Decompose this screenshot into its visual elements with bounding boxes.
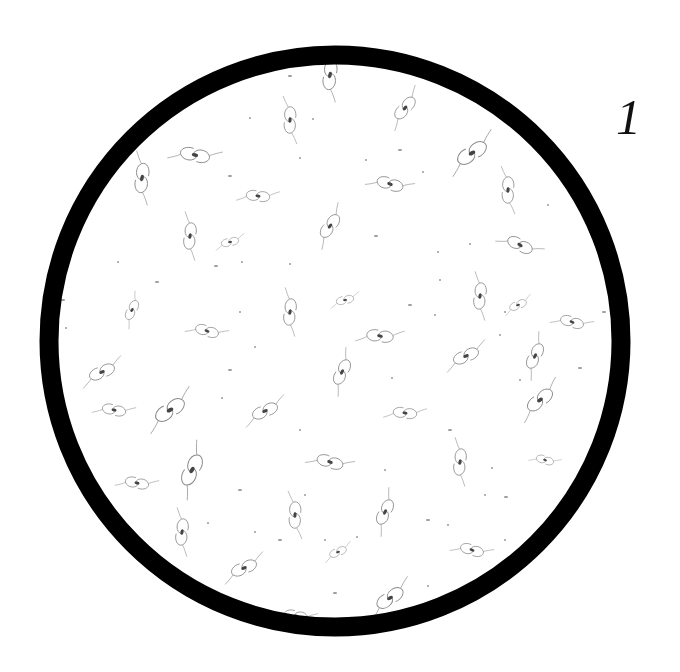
galaxy-speck — [504, 539, 506, 541]
spiral-galaxy — [441, 340, 491, 373]
boundary-ring — [49, 55, 621, 627]
galaxy-speck — [214, 265, 218, 267]
galaxy-speck — [426, 519, 430, 521]
spiral-galaxy — [447, 437, 473, 486]
galaxy-speck — [547, 204, 549, 206]
galaxy-speck — [504, 311, 506, 313]
galaxy-speck — [422, 171, 424, 173]
spiral-galaxy — [513, 377, 567, 423]
galaxy-speck — [238, 489, 242, 491]
galaxy-speck — [427, 585, 429, 587]
spiral-galaxy — [219, 552, 269, 585]
galaxy-speck — [299, 429, 301, 431]
galaxy-speck — [439, 279, 441, 281]
spiral-galaxy — [528, 449, 561, 471]
spiral-galaxy — [277, 287, 303, 336]
galaxy-speck — [324, 539, 326, 541]
galaxy-speck — [155, 281, 159, 283]
galaxy-field-illustration — [0, 0, 680, 672]
spiral-galaxy — [128, 151, 157, 206]
spiral-galaxy — [497, 166, 519, 214]
spiral-galaxy — [92, 397, 136, 423]
galaxy-speck — [333, 592, 337, 594]
galaxy-speck — [288, 75, 292, 77]
spiral-galaxy — [383, 402, 427, 425]
galaxy-speck — [299, 157, 301, 159]
galaxy-speck — [434, 314, 436, 316]
spiral-galaxy — [366, 487, 405, 537]
spiral-galaxy — [140, 386, 201, 434]
spiral-galaxy — [177, 211, 203, 260]
spiral-galaxy — [185, 316, 230, 345]
spiral-galaxy — [329, 291, 362, 308]
galaxy-speck — [408, 304, 412, 306]
spiral-galaxy — [115, 470, 159, 496]
galaxy-speck — [391, 377, 393, 379]
spiral-galaxy — [323, 347, 362, 397]
spiral-galaxy — [236, 185, 280, 208]
spiral-galaxy — [167, 139, 222, 172]
galaxy-speck — [602, 311, 606, 313]
galaxy-speck — [499, 334, 501, 336]
spiral-galaxy — [240, 395, 290, 428]
distant-galaxy-specks — [61, 75, 606, 594]
galaxy-speck — [249, 117, 251, 119]
galaxy-speck — [437, 251, 439, 253]
galaxy-speck — [469, 243, 471, 245]
spiral-galaxies — [77, 48, 594, 629]
panel-label: 1 — [616, 92, 641, 142]
spiral-galaxy — [308, 202, 352, 249]
spiral-galaxy — [450, 535, 495, 564]
spiral-galaxy — [382, 85, 428, 131]
spiral-galaxy — [365, 168, 415, 201]
galaxy-speck — [484, 494, 486, 496]
galaxy-speck — [384, 469, 386, 471]
galaxy-speck — [365, 159, 367, 161]
spiral-galaxy — [516, 331, 555, 381]
galaxy-speck — [448, 429, 452, 431]
galaxy-speck — [117, 261, 119, 263]
galaxy-speck — [254, 531, 256, 533]
spiral-galaxy — [279, 96, 301, 144]
spiral-galaxy — [442, 129, 503, 177]
galaxy-speck — [278, 539, 282, 541]
galaxy-speck — [374, 235, 378, 237]
spiral-galaxy — [77, 356, 127, 389]
galaxy-speck — [239, 311, 241, 313]
galaxy-speck — [289, 263, 291, 265]
galaxy-speck — [578, 367, 582, 369]
galaxy-speck — [447, 524, 449, 526]
galaxy-speck — [304, 494, 306, 496]
galaxy-speck — [356, 536, 358, 538]
galaxy-speck — [228, 175, 232, 177]
spiral-galaxy — [117, 291, 147, 330]
galaxy-speck — [504, 496, 508, 498]
spiral-galaxy — [467, 271, 493, 320]
spiral-galaxy — [214, 233, 247, 250]
spiral-galaxy — [169, 507, 195, 556]
galaxy-speck — [254, 346, 256, 348]
galaxy-speck — [228, 369, 232, 371]
galaxy-speck — [312, 118, 314, 120]
spiral-galaxy — [321, 541, 354, 563]
galaxy-speck — [221, 397, 223, 399]
spiral-galaxy — [501, 294, 534, 316]
spiral-galaxy — [305, 446, 355, 479]
galaxy-speck — [241, 261, 243, 263]
spiral-galaxy — [168, 440, 216, 501]
galaxy-speck — [207, 522, 209, 524]
galaxy-speck — [491, 467, 493, 469]
galaxy-speck — [65, 327, 67, 329]
spiral-galaxy — [550, 307, 595, 336]
galaxy-speck — [519, 379, 521, 381]
spiral-galaxy — [284, 491, 306, 539]
spiral-galaxy — [495, 226, 545, 265]
galaxy-speck — [398, 149, 402, 151]
spiral-galaxy — [355, 323, 404, 349]
